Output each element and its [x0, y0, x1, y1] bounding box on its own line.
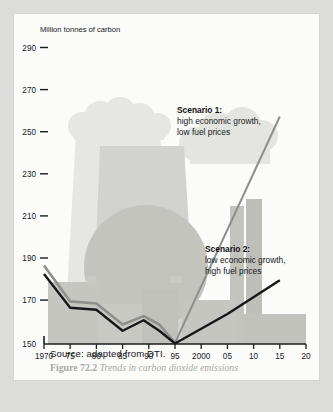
- y-axis-ticks: 290 270 250 230 210 190 170 150: [22, 44, 48, 350]
- xtick-label-2020: 20: [301, 352, 311, 361]
- xtick-label-2010: 10: [249, 352, 259, 361]
- xtick-label-2005: 05: [223, 352, 233, 361]
- figure-root: Million tonnes of carbon 290 270 250 230…: [0, 0, 333, 412]
- page-edge-artifact: [8, 396, 68, 410]
- figure-caption-title: Trends in carbon dioxide emissions: [100, 362, 238, 373]
- xtick-label-2015: 15: [275, 352, 285, 361]
- scenario2-annotation-line1: low economic growth,: [205, 255, 286, 265]
- ytick-label-230: 230: [22, 170, 36, 179]
- scenario2-annotation-line2: high fuel prices: [205, 266, 261, 276]
- ytick-label-190: 190: [22, 254, 36, 263]
- scenario1-annotation-line1: high economic growth,: [177, 116, 261, 126]
- y-axis-title: Million tonnes of carbon: [40, 25, 120, 34]
- xtick-label-1995: 95: [170, 352, 180, 361]
- scenario1-annotation-line2: low fuel prices: [177, 127, 230, 137]
- ytick-label-210: 210: [22, 212, 36, 221]
- figure-caption-number: Figure 72.2: [50, 362, 97, 373]
- scenario2-annotation-title: Scenario 2:: [205, 244, 250, 254]
- pipe-detail-b: [170, 276, 182, 283]
- cooling-tower-steam: [68, 97, 171, 140]
- scenario2-annotation: Scenario 2: low economic growth, high fu…: [205, 244, 286, 276]
- ytick-label-270: 270: [22, 86, 36, 95]
- xtick-label-2000: 2000: [192, 352, 211, 361]
- chart-plot-area: Million tonnes of carbon 290 270 250 230…: [14, 14, 319, 380]
- ytick-label-250: 250: [22, 128, 36, 137]
- figure-card: Million tonnes of carbon 290 270 250 230…: [14, 14, 319, 380]
- source-note: Source: adapted from DTI.: [50, 348, 166, 359]
- ytick-label-150: 150: [22, 340, 36, 349]
- ytick-label-170: 170: [22, 296, 36, 305]
- pipe-detail-a: [86, 276, 96, 284]
- figure-caption: Figure 72.2 Trends in carbon dioxide emi…: [50, 362, 238, 373]
- plant-building-edge: [244, 314, 306, 344]
- plant-building-left: [48, 282, 100, 344]
- ytick-label-290: 290: [22, 44, 36, 53]
- scenario1-annotation-title: Scenario 1:: [177, 105, 222, 115]
- plant-building-far-right: [182, 300, 236, 344]
- emissions-line-chart: Million tonnes of carbon 290 270 250 230…: [14, 14, 319, 380]
